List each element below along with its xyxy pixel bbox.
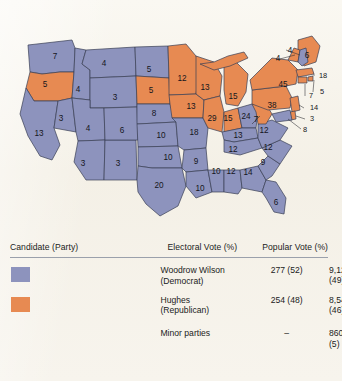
party-color-swatch	[11, 297, 30, 312]
electoral-vote-MO: 18	[189, 128, 199, 137]
electoral-vote-WY: 3	[113, 93, 118, 102]
electoral-vote-cell: 254 (48)	[245, 288, 328, 318]
state-FL[interactable]	[262, 180, 286, 214]
header-popular-vote: Popular Vote (%)	[245, 236, 328, 258]
electoral-vote-NH: 4	[288, 46, 293, 55]
electoral-vote-AR: 9	[194, 157, 199, 166]
us-electoral-map: 7513434343365581010201213189101329101515…	[0, 0, 342, 232]
electoral-vote-NE: 8	[152, 109, 157, 118]
electoral-vote-LA: 10	[195, 184, 205, 193]
state-WY[interactable]	[90, 76, 137, 108]
electoral-vote-ID: 4	[76, 85, 81, 94]
electoral-vote-VA: 12	[259, 126, 269, 135]
party-color-swatch-cell	[10, 258, 159, 288]
electoral-vote-ND: 5	[147, 65, 152, 74]
electoral-vote-NV: 3	[59, 114, 64, 123]
party-color-swatch-cell	[10, 317, 159, 351]
table-row: Woodrow Wilson(Democrat)277 (52)9,126,30…	[10, 258, 328, 288]
party-color-swatch	[11, 267, 30, 282]
state-ND[interactable]	[135, 46, 169, 78]
electoral-vote-label-CT: 7	[309, 91, 313, 100]
candidate-name-cell: Hughes(Republican)	[159, 288, 245, 318]
electoral-vote-NY: 45	[278, 80, 288, 89]
state-NM[interactable]	[104, 140, 137, 180]
electoral-vote-label-MD: 8	[303, 125, 307, 134]
electoral-vote-ME: 6	[305, 51, 310, 60]
state-TX[interactable]	[137, 166, 186, 216]
electoral-vote-WI: 13	[200, 83, 210, 92]
electoral-vote-cell: 277 (52)	[245, 258, 328, 288]
electoral-vote-NM: 3	[116, 159, 121, 168]
table-row: Minor parties–860,916(5)	[10, 317, 328, 351]
electoral-vote-OH: 24	[241, 112, 251, 121]
electoral-vote-label-DE: 3	[310, 114, 314, 123]
electoral-vote-cell: –	[245, 317, 328, 351]
leader-line-DE	[296, 116, 305, 119]
party-color-swatch-cell	[10, 288, 159, 318]
electoral-map-figure: 7513434343365581010201213189101329101515…	[0, 0, 342, 232]
electoral-vote-FL: 6	[274, 198, 279, 207]
candidate-name: Minor parties	[160, 328, 244, 339]
electoral-vote-UT: 4	[86, 124, 91, 133]
candidate-name: Hughes	[160, 295, 244, 306]
electoral-vote-SC: 9	[261, 158, 266, 167]
electoral-vote-MS: 10	[211, 167, 221, 176]
state-MD[interactable]	[272, 110, 292, 122]
electoral-vote-VT: 4	[276, 54, 281, 63]
state-MN[interactable]	[168, 44, 200, 95]
electoral-vote-IL: 29	[207, 114, 217, 123]
electoral-vote-label-NJ: 14	[310, 103, 318, 112]
header-candidate: Candidate (Party)	[10, 236, 159, 258]
table-header-row: Candidate (Party) Electoral Vote (%) Pop…	[10, 236, 328, 258]
state-CT[interactable]	[298, 77, 307, 83]
electoral-vote-AZ: 3	[81, 159, 86, 168]
candidate-name-cell: Minor parties	[159, 317, 245, 351]
state-AZ[interactable]	[74, 140, 105, 180]
electoral-vote-MI: 15	[228, 92, 238, 101]
electoral-vote-WA: 7	[53, 52, 58, 61]
electoral-vote-SD: 5	[149, 86, 154, 95]
candidate-party: (Republican)	[160, 305, 244, 316]
leader-line-RI	[313, 80, 314, 92]
leader-line-MD	[288, 119, 301, 129]
electoral-vote-KY: 13	[233, 131, 243, 140]
state-WA[interactable]	[28, 40, 75, 74]
candidate-name: Woodrow Wilson	[160, 265, 244, 276]
electoral-vote-PA: 38	[267, 101, 277, 110]
header-electoral-vote: Electoral Vote (%)	[159, 236, 245, 258]
candidate-name-cell: Woodrow Wilson(Democrat)	[159, 258, 245, 288]
candidate-party: (Democrat)	[160, 276, 244, 287]
electoral-vote-CO: 6	[120, 126, 125, 135]
election-results-table: Candidate (Party) Electoral Vote (%) Pop…	[0, 236, 342, 381]
electoral-vote-OR: 5	[43, 80, 48, 89]
electoral-vote-IN: 15	[223, 114, 233, 123]
state-MT[interactable]	[82, 47, 136, 78]
electoral-vote-WV: 7	[254, 115, 259, 124]
electoral-vote-KS: 10	[156, 131, 166, 140]
state-OK[interactable]	[138, 146, 182, 168]
electoral-vote-label-RI: 5	[320, 87, 324, 96]
electoral-vote-MT: 4	[102, 59, 107, 68]
table-row: Hughes(Republican)254 (48)8,546,789(46)	[10, 288, 328, 318]
state-RI[interactable]	[308, 76, 313, 81]
electoral-vote-AL: 12	[226, 167, 236, 176]
state-OR[interactable]	[26, 72, 74, 101]
electoral-vote-CA: 13	[34, 129, 44, 138]
electoral-vote-MN: 12	[177, 74, 187, 83]
state-NY[interactable]	[250, 58, 298, 90]
state-MA[interactable]	[296, 68, 314, 77]
electoral-vote-GA: 14	[243, 168, 253, 177]
electoral-vote-OK: 10	[163, 153, 173, 162]
electoral-vote-TX: 20	[154, 181, 164, 190]
state-NJ[interactable]	[290, 96, 300, 112]
electoral-vote-IA: 13	[186, 102, 196, 111]
electoral-vote-TN: 12	[228, 145, 238, 154]
electoral-vote-label-MA: 18	[319, 71, 327, 80]
electoral-vote-NC: 12	[263, 143, 273, 152]
